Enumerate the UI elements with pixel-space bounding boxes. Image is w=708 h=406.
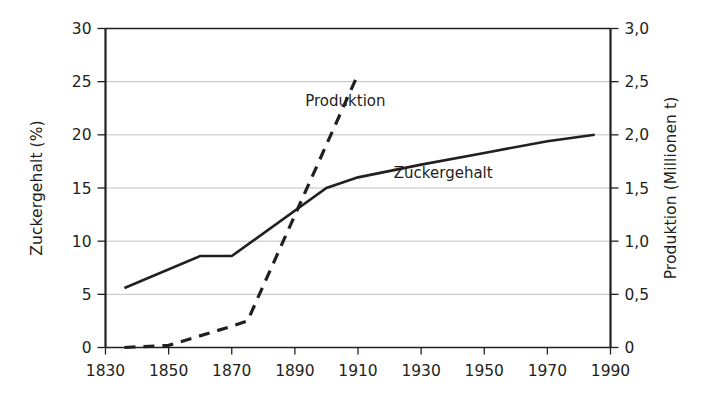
x-tick-label: 1890 [275,362,314,380]
chart-figure: 183018501870189019101930195019701990 051… [0,0,708,406]
line-chart: 183018501870189019101930195019701990 051… [0,0,708,406]
y-tick-label-left: 25 [72,73,92,91]
x-tick-label: 1990 [591,362,630,380]
x-tick-label: 1950 [465,362,504,380]
y-tick-label-left: 10 [72,233,92,251]
series-annotation-produktion: Produktion [305,92,385,110]
x-tick-label: 1850 [149,362,188,380]
y-tick-label-left: 15 [72,180,92,198]
y-tick-label-right: 1,5 [625,180,650,198]
y-tick-label-right: 3,0 [625,20,650,38]
series-annotation-zuckergehalt: Zuckergehalt [394,164,493,182]
x-tick-label: 1970 [528,362,567,380]
y-tick-label-left: 5 [82,286,92,304]
y-tick-label-right: 2,0 [625,126,650,144]
y-tick-label-left: 20 [72,126,92,144]
x-tick-label: 1830 [86,362,125,380]
x-tick-label: 1870 [212,362,251,380]
y-axis-left-title: Zuckergehalt (%) [28,120,46,255]
y-tick-label-right: 1,0 [625,233,650,251]
y-tick-label-right: 2,5 [625,73,650,91]
x-tick-label: 1930 [401,362,440,380]
y-tick-label-left: 0 [82,339,92,357]
y-tick-label-right: 0 [625,339,635,357]
y-axis-right-title: Produktion (Millionen t) [662,97,680,280]
y-tick-label-left: 30 [72,20,92,38]
x-tick-label: 1910 [338,362,377,380]
x-axis-tick-labels: 183018501870189019101930195019701990 [86,362,630,380]
y-tick-label-right: 0,5 [625,286,650,304]
